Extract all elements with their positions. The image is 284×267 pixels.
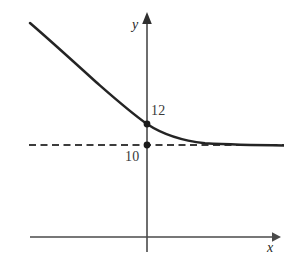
y-intercept-value-label: 12 — [151, 104, 166, 118]
x-axis — [30, 232, 281, 242]
y-axis-arrowhead-icon — [142, 12, 152, 24]
y-intercept-point — [144, 121, 151, 128]
exponential-decay-graph-figure: y x 12 10 — [0, 0, 284, 267]
asymptote-point — [144, 142, 151, 149]
y-axis-label: y — [132, 18, 138, 32]
asymptote-value-label: 10 — [125, 150, 140, 164]
x-axis-arrowhead-icon — [272, 232, 281, 242]
graph-canvas — [0, 0, 284, 267]
x-axis-label: x — [267, 241, 273, 255]
exponential-decay-curve — [30, 23, 284, 145]
y-axis — [142, 12, 152, 252]
